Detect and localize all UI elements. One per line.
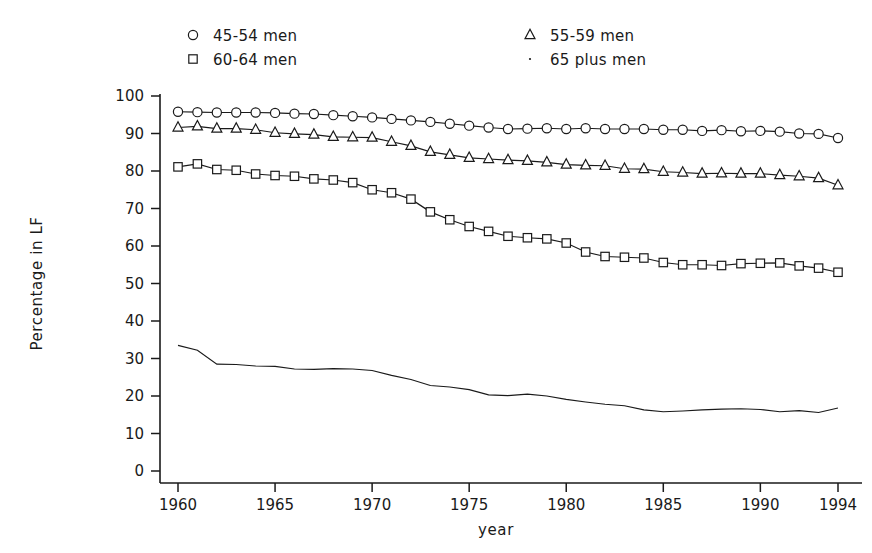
- data-point-marker: [465, 121, 474, 130]
- y-axis-tick-label: 90: [125, 125, 144, 143]
- data-point-marker: [814, 264, 822, 272]
- data-point-marker: [368, 113, 377, 122]
- data-point-marker: [833, 133, 842, 142]
- data-point-marker: [601, 252, 609, 260]
- x-axis-tick-label: 1970: [353, 496, 391, 514]
- legend-marker-dot-icon: [529, 58, 531, 60]
- data-point-marker: [795, 262, 803, 270]
- data-point-marker: [581, 124, 590, 133]
- data-point-marker: [834, 268, 842, 276]
- data-point-marker: [562, 239, 570, 247]
- data-point-marker: [193, 108, 202, 117]
- data-point-marker: [173, 107, 182, 116]
- x-axis-tick-label: 1980: [547, 496, 585, 514]
- data-point-marker: [659, 125, 668, 134]
- data-point-marker: [542, 124, 551, 133]
- data-point-marker: [737, 259, 745, 267]
- data-point-marker: [698, 126, 707, 135]
- y-axis-tick-label: 100: [115, 87, 144, 105]
- y-axis-title: Percentage in LF: [28, 216, 46, 350]
- data-point-marker: [814, 129, 823, 138]
- data-point-marker: [406, 116, 415, 125]
- y-axis-tick-label: 0: [134, 462, 144, 480]
- data-point-marker: [776, 259, 784, 267]
- x-axis-tick-label: 1975: [450, 496, 488, 514]
- data-point-marker: [426, 117, 435, 126]
- chart-figure: 45-54 men55-59 men60-64 men65 plus men 0…: [0, 0, 872, 553]
- data-point-marker: [484, 227, 492, 235]
- data-point-marker: [271, 171, 279, 179]
- data-point-marker: [290, 172, 298, 180]
- x-axis-tick-label: 1985: [644, 496, 682, 514]
- y-axis-tick-label: 80: [125, 162, 144, 180]
- data-point-marker: [213, 165, 221, 173]
- x-axis-tick-label: 1965: [256, 496, 294, 514]
- legend-label: 65 plus men: [550, 51, 646, 69]
- data-point-marker: [659, 258, 667, 266]
- legend-marker-circle-icon: [188, 30, 197, 39]
- data-point-marker: [445, 119, 454, 128]
- data-point-marker: [543, 235, 551, 243]
- legend-label: 45-54 men: [213, 27, 297, 45]
- data-point-marker: [620, 124, 629, 133]
- x-axis-tick-label: 1994: [819, 496, 857, 514]
- data-point-marker: [600, 124, 609, 133]
- data-point-marker: [309, 109, 318, 118]
- data-point-marker: [736, 127, 745, 136]
- data-point-marker: [698, 261, 706, 269]
- data-point-marker: [523, 234, 531, 242]
- data-point-marker: [407, 195, 415, 203]
- data-point-marker: [639, 124, 648, 133]
- y-axis-tick-label: 70: [125, 200, 144, 218]
- data-point-marker: [251, 108, 260, 117]
- data-point-marker: [523, 124, 532, 133]
- legend-label: 55-59 men: [550, 27, 634, 45]
- data-point-marker: [446, 216, 454, 224]
- y-axis-tick-label: 30: [125, 350, 144, 368]
- data-point-marker: [756, 126, 765, 135]
- data-point-marker: [387, 114, 396, 123]
- data-point-marker: [756, 259, 764, 267]
- data-point-marker: [426, 208, 434, 216]
- data-point-marker: [212, 108, 221, 117]
- y-axis-tick-label: 40: [125, 312, 144, 330]
- data-point-marker: [504, 232, 512, 240]
- data-point-marker: [348, 112, 357, 121]
- data-point-marker: [503, 124, 512, 133]
- data-point-marker: [717, 261, 725, 269]
- data-point-marker: [329, 176, 337, 184]
- data-point-marker: [270, 108, 279, 117]
- data-point-marker: [562, 124, 571, 133]
- y-axis-tick-label: 10: [125, 425, 144, 443]
- data-point-marker: [679, 261, 687, 269]
- data-point-marker: [193, 160, 201, 168]
- y-axis-tick-label: 60: [125, 237, 144, 255]
- data-point-marker: [775, 127, 784, 136]
- data-point-marker: [678, 125, 687, 134]
- legend-label: 60-64 men: [213, 51, 297, 69]
- y-axis-tick-label: 20: [125, 387, 144, 405]
- data-point-marker: [349, 178, 357, 186]
- data-point-marker: [620, 253, 628, 261]
- data-point-marker: [290, 109, 299, 118]
- x-axis-tick-label: 1960: [159, 496, 197, 514]
- x-axis-tick-label: 1990: [741, 496, 779, 514]
- data-point-marker: [717, 126, 726, 135]
- data-point-marker: [387, 189, 395, 197]
- data-point-marker: [232, 108, 241, 117]
- legend-marker-square-icon: [189, 55, 197, 63]
- data-point-marker: [232, 166, 240, 174]
- data-point-marker: [174, 163, 182, 171]
- chart-canvas: 45-54 men55-59 men60-64 men65 plus men 0…: [0, 0, 872, 553]
- data-point-marker: [640, 254, 648, 262]
- data-point-marker: [795, 129, 804, 138]
- data-point-marker: [329, 111, 338, 120]
- data-point-marker: [310, 175, 318, 183]
- data-point-marker: [484, 123, 493, 132]
- data-point-marker: [581, 248, 589, 256]
- y-axis-tick-label: 50: [125, 275, 144, 293]
- data-point-marker: [251, 170, 259, 178]
- data-point-marker: [368, 186, 376, 194]
- data-point-marker: [465, 222, 473, 230]
- x-axis-title: year: [478, 521, 514, 539]
